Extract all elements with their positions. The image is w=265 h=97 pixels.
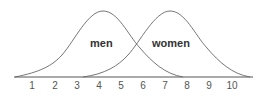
x-tick-labels: 1 2 3 4 5 6 7 8 9 10 (29, 80, 238, 91)
x-tick: 10 (226, 80, 238, 91)
women-label: women (151, 37, 190, 49)
x-tick: 5 (118, 80, 124, 91)
x-tick: 1 (29, 80, 35, 91)
distribution-chart: men women 1 2 3 4 5 6 7 8 9 10 (0, 0, 265, 97)
x-tick: 4 (96, 80, 102, 91)
x-tick: 2 (52, 80, 58, 91)
men-label: men (90, 37, 113, 49)
x-tick: 8 (184, 80, 190, 91)
x-tick: 9 (206, 80, 212, 91)
x-tick: 6 (140, 80, 146, 91)
x-tick: 7 (162, 80, 168, 91)
chart-svg: men women 1 2 3 4 5 6 7 8 9 10 (0, 0, 265, 97)
x-tick: 3 (74, 80, 80, 91)
